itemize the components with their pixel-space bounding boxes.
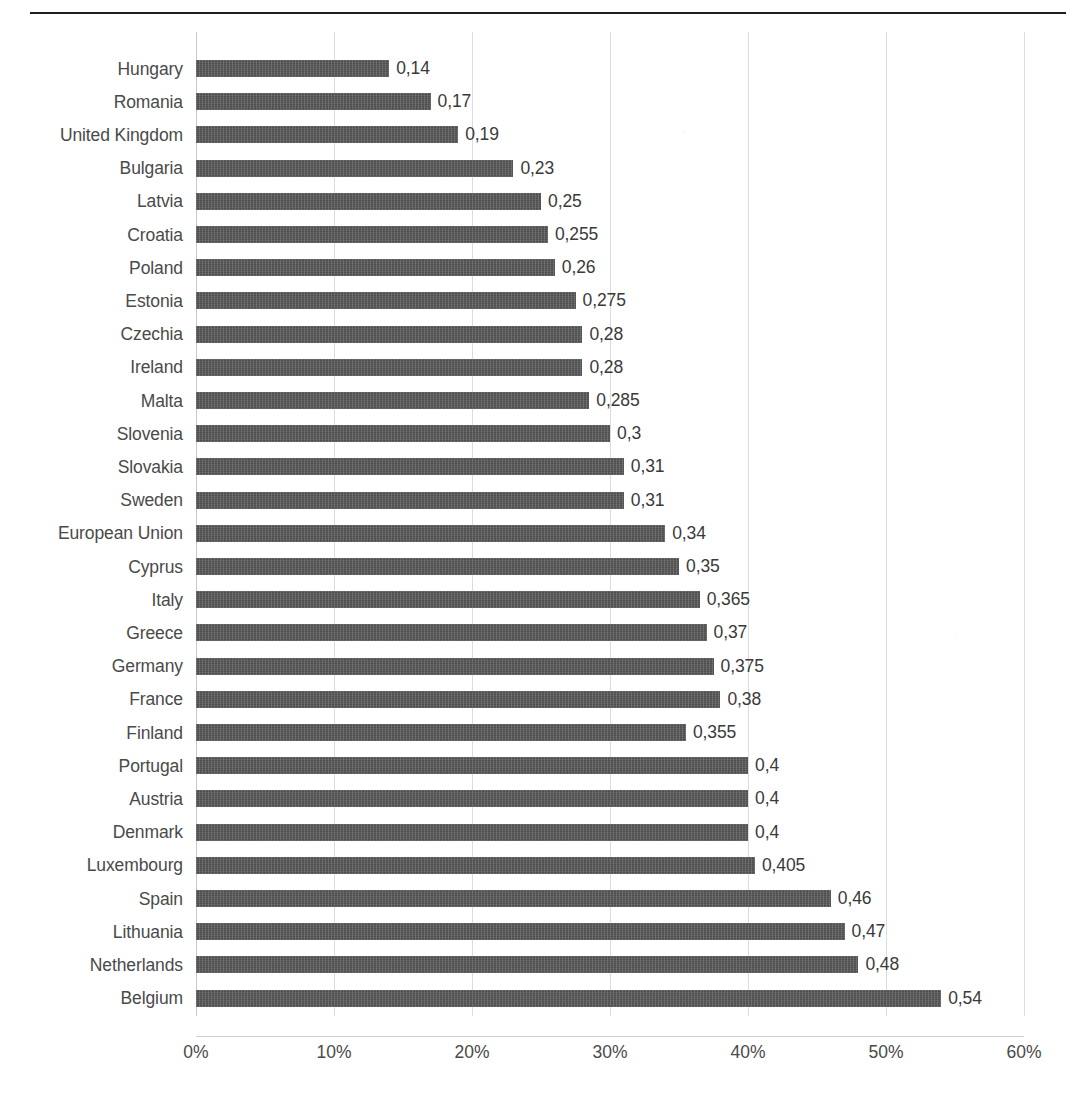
bar-row: Slovenia0,3 [0,417,1086,450]
category-label: European Union [0,523,183,543]
category-label: Italy [0,590,183,610]
bar[interactable] [196,658,714,675]
bar-value-label: 0,28 [589,322,623,347]
x-tick-30%: 30% [565,1042,655,1063]
bar-value-label: 0,285 [596,388,639,413]
top-horizontal-rule [30,12,1066,14]
bar-row: Ireland0,28 [0,351,1086,384]
bar-row: Poland0,26 [0,251,1086,284]
bar-row: United Kingdom0,19 [0,118,1086,151]
x-axis-tick-labels: 0%10%20%30%40%50%60% [0,1042,1086,1082]
bar[interactable] [196,890,831,907]
bar-container [196,359,582,376]
bar-container [196,326,582,343]
bar-row: European Union0,34 [0,517,1086,550]
bar-value-label: 0,3 [617,421,641,446]
bar-row: Belgium0,54 [0,982,1086,1015]
bar-container [196,425,610,442]
bar-row: Italy0,365 [0,583,1086,616]
bar[interactable] [196,392,589,409]
bar[interactable] [196,492,624,509]
bar-value-label: 0,17 [438,89,472,114]
bar[interactable] [196,60,389,77]
bar[interactable] [196,259,555,276]
bar-value-label: 0,54 [948,986,982,1011]
category-label: Netherlands [0,955,183,975]
bar-value-label: 0,35 [686,554,720,579]
bar-container [196,956,858,973]
category-label: United Kingdom [0,125,183,145]
bar[interactable] [196,326,582,343]
bar[interactable] [196,226,548,243]
bar[interactable] [196,591,700,608]
bar[interactable] [196,857,755,874]
category-label: Greece [0,623,183,643]
bar-value-label: 0,4 [755,753,779,778]
bar-container [196,93,431,110]
bar[interactable] [196,923,845,940]
category-label: Denmark [0,822,183,842]
bar-container [196,757,748,774]
x-axis-baseline [196,1036,1024,1037]
bar[interactable] [196,624,707,641]
bar-container [196,392,589,409]
bar[interactable] [196,126,458,143]
bar-container [196,492,624,509]
bar-chart: Hungary0,14Romania0,17United Kingdom0,19… [0,26,1086,1086]
bar-container [196,724,686,741]
bar[interactable] [196,790,748,807]
category-label: Spain [0,889,183,909]
bar-row: Spain0,46 [0,882,1086,915]
x-tick-60%: 60% [979,1042,1069,1063]
bar[interactable] [196,724,686,741]
bar-value-label: 0,375 [721,654,764,679]
bar-container [196,558,679,575]
bar-row: Romania0,17 [0,85,1086,118]
bar[interactable] [196,956,858,973]
bar[interactable] [196,558,679,575]
bar-value-label: 0,47 [852,919,886,944]
category-label: Croatia [0,225,183,245]
bar-row: Bulgaria0,23 [0,152,1086,185]
category-label: Sweden [0,490,183,510]
bar-container [196,923,845,940]
category-label: Luxembourg [0,855,183,875]
bar[interactable] [196,757,748,774]
bar-container [196,259,555,276]
category-label: Malta [0,391,183,411]
category-label: France [0,689,183,709]
bar[interactable] [196,93,431,110]
x-tick-10%: 10% [289,1042,379,1063]
category-label: Slovakia [0,457,183,477]
category-label: Finland [0,723,183,743]
bar[interactable] [196,525,665,542]
bar-row: Cyprus0,35 [0,550,1086,583]
bar-value-label: 0,275 [583,288,626,313]
bar-value-label: 0,38 [727,687,761,712]
bar-value-label: 0,31 [631,488,665,513]
bar-container [196,193,541,210]
category-label: Austria [0,789,183,809]
bar[interactable] [196,824,748,841]
bar[interactable] [196,425,610,442]
bar[interactable] [196,458,624,475]
bar-container [196,591,700,608]
bar[interactable] [196,691,720,708]
x-tick-0%: 0% [151,1042,241,1063]
bar-container [196,857,755,874]
bar-row: Denmark0,4 [0,816,1086,849]
bar-container [196,226,548,243]
bar-value-label: 0,19 [465,122,499,147]
category-label: Estonia [0,291,183,311]
bar-value-label: 0,26 [562,255,596,280]
bar-row: Greece0,37 [0,616,1086,649]
bar[interactable] [196,292,576,309]
bar-row: Estonia0,275 [0,284,1086,317]
bar[interactable] [196,160,513,177]
bar-value-label: 0,25 [548,189,582,214]
bar-row: Portugal0,4 [0,749,1086,782]
bar[interactable] [196,990,941,1007]
bar[interactable] [196,359,582,376]
bar[interactable] [196,193,541,210]
bar-row: Latvia0,25 [0,185,1086,218]
